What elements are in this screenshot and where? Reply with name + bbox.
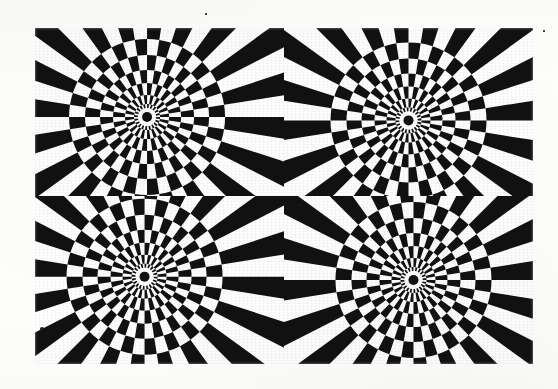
hub-center-dot: [408, 275, 418, 285]
hub-center-dot: [404, 115, 414, 125]
paper-speck: [335, 316, 337, 318]
sunburst-vector: [284, 196, 533, 364]
sunburst-panel-bottom-right: [284, 196, 533, 364]
paper-speck: [205, 13, 207, 15]
sunburst-panel-bottom-left: [35, 196, 284, 364]
hub-center-dot: [142, 112, 152, 122]
sunburst-vector: [284, 28, 533, 196]
paper-speck: [299, 205, 300, 206]
sunburst-panel-top-right: [284, 28, 533, 196]
sunburst-panel-top-left: [35, 28, 284, 196]
sunburst-vector: [35, 196, 284, 364]
sunburst-vector: [35, 28, 284, 196]
sunburst-artwork-block: [35, 28, 533, 364]
paper-speck: [543, 30, 544, 31]
paper-speck: [40, 327, 44, 331]
paper-speck: [526, 117, 528, 119]
artwork-page: Radial Sunburst Op-Art Tiling: [0, 0, 558, 389]
hub-center-dot: [140, 272, 150, 282]
